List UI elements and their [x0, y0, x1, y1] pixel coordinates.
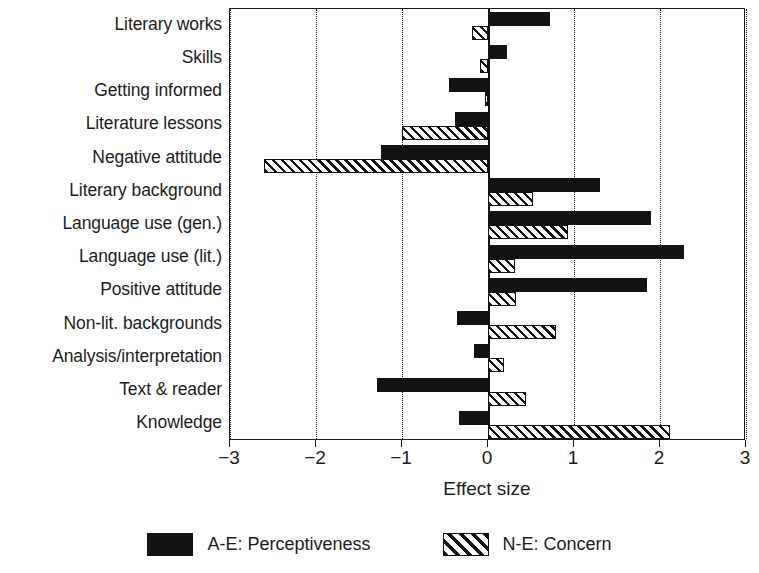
legend-item-concern: N-E: Concern — [443, 533, 612, 556]
tick-mark — [573, 440, 574, 447]
tick-mark — [315, 440, 316, 447]
bar-perceptiveness — [459, 411, 488, 425]
effect-size-bar-chart: Literary worksSkillsGetting informedLite… — [0, 0, 759, 573]
gridline — [402, 9, 403, 439]
gridline — [746, 9, 747, 439]
category-axis-labels: Literary worksSkillsGetting informedLite… — [0, 8, 222, 440]
legend-item-perceptiveness: A-E: Perceptiveness — [147, 533, 370, 556]
plot-area — [229, 8, 745, 440]
x-tick-label: 0 — [482, 448, 493, 467]
bar-perceptiveness — [474, 344, 488, 358]
x-tick-label: −1 — [390, 448, 412, 467]
bar-concern — [485, 92, 488, 106]
bar-concern — [472, 26, 488, 40]
bar-perceptiveness — [488, 178, 600, 192]
bar-concern — [264, 159, 488, 173]
category-label: Skills — [0, 49, 222, 67]
x-tick-label: −3 — [218, 448, 240, 467]
x-tick-label: 3 — [740, 448, 751, 467]
gridline — [316, 9, 317, 439]
bar-perceptiveness — [488, 211, 651, 225]
x-tick-label: −2 — [304, 448, 326, 467]
tick-mark — [745, 440, 746, 447]
category-label: Literature lessons — [0, 115, 222, 133]
legend-swatch-solid-icon — [147, 533, 193, 556]
bar-concern — [480, 59, 488, 73]
bar-concern — [488, 325, 556, 339]
tick-mark — [229, 440, 230, 447]
bar-concern — [488, 392, 526, 406]
bar-concern — [488, 192, 533, 206]
category-label: Knowledge — [0, 414, 222, 432]
bar-perceptiveness — [488, 12, 550, 26]
category-label: Literary works — [0, 16, 222, 34]
legend-label-perceptiveness: A-E: Perceptiveness — [207, 534, 370, 555]
legend-swatch-hatch-icon — [443, 533, 489, 556]
category-label: Getting informed — [0, 82, 222, 100]
bar-concern — [402, 126, 488, 140]
bar-perceptiveness — [488, 278, 647, 292]
bar-concern — [488, 292, 516, 306]
bar-perceptiveness — [488, 45, 507, 59]
category-label: Text & reader — [0, 381, 222, 399]
chart-legend: A-E: Perceptiveness N-E: Concern — [0, 524, 759, 564]
tick-mark — [401, 440, 402, 447]
bar-perceptiveness — [449, 78, 488, 92]
category-label: Negative attitude — [0, 149, 222, 167]
bar-perceptiveness — [377, 378, 488, 392]
category-label: Language use (gen.) — [0, 215, 222, 233]
gridline — [660, 9, 661, 439]
bar-perceptiveness — [455, 112, 488, 126]
gridline — [230, 9, 231, 439]
bar-concern — [488, 425, 670, 439]
category-label: Non-lit. backgrounds — [0, 315, 222, 333]
bar-perceptiveness — [488, 245, 684, 259]
tick-mark — [659, 440, 660, 447]
x-axis-title: Effect size — [229, 478, 745, 500]
bar-perceptiveness — [381, 145, 488, 159]
tick-mark — [487, 440, 488, 447]
bar-concern — [488, 225, 568, 239]
x-axis-ticks: −3−2−10123 — [229, 440, 745, 470]
category-label: Analysis/interpretation — [0, 348, 222, 366]
bar-perceptiveness — [457, 311, 488, 325]
category-label: Positive attitude — [0, 281, 222, 299]
category-label: Literary background — [0, 182, 222, 200]
x-tick-label: 1 — [568, 448, 579, 467]
x-tick-label: 2 — [654, 448, 665, 467]
bar-concern — [488, 358, 504, 372]
bar-concern — [488, 259, 515, 273]
category-label: Language use (lit.) — [0, 248, 222, 266]
legend-label-concern: N-E: Concern — [503, 534, 612, 555]
